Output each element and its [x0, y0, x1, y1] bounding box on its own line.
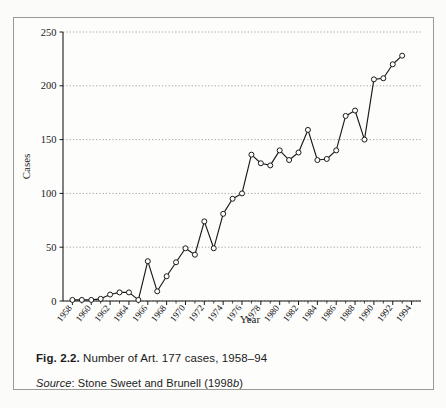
- data-point-1967: [155, 289, 160, 294]
- x-tick-label-1992: 1992: [375, 303, 394, 324]
- x-tick-label-1980: 1980: [262, 303, 281, 324]
- gridlines: [63, 32, 421, 301]
- source-label: Source: [36, 377, 71, 389]
- data-point-1987: [343, 113, 348, 118]
- chart-plot-area: 050100150200250 195819601962196419661968…: [14, 18, 435, 328]
- data-point-markers: [70, 53, 405, 302]
- x-axis-title: Year: [240, 313, 261, 325]
- data-series-line: [72, 56, 402, 300]
- line-chart: 050100150200250 195819601962196419661968…: [14, 18, 435, 328]
- data-point-1980: [277, 148, 282, 153]
- x-tick-label-1994: 1994: [394, 303, 413, 324]
- x-tick-label-1986: 1986: [319, 303, 338, 324]
- data-point-1960: [89, 297, 94, 302]
- y-tick-label-200: 200: [41, 80, 57, 91]
- data-point-1971: [192, 252, 197, 257]
- figure-frame: 050100150200250 195819601962196419661968…: [13, 17, 434, 390]
- x-tick-label-1968: 1968: [149, 303, 168, 324]
- figure-source: Source: Stone Sweet and Brunell (1998b): [36, 376, 426, 390]
- y-tick-labels: 050100150200250: [41, 27, 57, 307]
- x-tick-label-1962: 1962: [92, 303, 111, 324]
- y-tick-label-50: 50: [46, 242, 57, 253]
- source-text-b: ): [239, 377, 243, 389]
- x-tick-label-1966: 1966: [130, 303, 149, 324]
- data-point-1988: [353, 108, 358, 113]
- x-tick-label-1970: 1970: [168, 303, 187, 324]
- data-point-1969: [174, 260, 179, 265]
- x-tick-label-1990: 1990: [356, 303, 375, 324]
- page-background: 050100150200250 195819601962196419661968…: [0, 0, 446, 408]
- y-tick-label-100: 100: [41, 188, 57, 199]
- x-tick-label-1964: 1964: [111, 303, 130, 324]
- data-point-1973: [211, 246, 216, 251]
- data-point-1983: [305, 127, 310, 132]
- data-point-1964: [126, 290, 131, 295]
- data-point-1958: [70, 297, 75, 302]
- data-point-1959: [79, 297, 84, 302]
- data-point-1978: [258, 161, 263, 166]
- source-text-a: Stone Sweet and Brunell (1998: [75, 377, 233, 389]
- x-tick-label-1972: 1972: [187, 303, 206, 324]
- data-point-1977: [249, 152, 254, 157]
- figure-caption-block: Fig. 2.2. Number of Art. 177 cases, 1958…: [36, 351, 426, 390]
- data-point-1966: [145, 259, 150, 264]
- data-point-1972: [202, 219, 207, 224]
- data-point-1984: [315, 158, 320, 163]
- data-point-1963: [117, 290, 122, 295]
- y-tick-label-150: 150: [41, 134, 57, 145]
- x-tick-label-1960: 1960: [74, 303, 93, 324]
- chart-axes: [63, 32, 421, 301]
- x-tick-label-1974: 1974: [206, 303, 225, 324]
- figure-number: Fig. 2.2.: [36, 352, 80, 364]
- x-tick-label-1958: 1958: [55, 303, 74, 324]
- data-point-1979: [268, 163, 273, 168]
- data-point-1970: [183, 246, 188, 251]
- data-point-1968: [164, 274, 169, 279]
- data-point-1981: [287, 158, 292, 163]
- y-axis-title: Cases: [20, 154, 32, 180]
- data-point-1961: [98, 296, 103, 301]
- x-tick-label-1982: 1982: [281, 303, 300, 324]
- data-point-1975: [230, 196, 235, 201]
- data-point-1965: [136, 297, 141, 302]
- x-tick-label-1988: 1988: [337, 303, 356, 324]
- data-point-1982: [296, 150, 301, 155]
- data-point-1992: [390, 62, 395, 67]
- x-tick-label-1984: 1984: [300, 303, 319, 324]
- y-tick-label-0: 0: [51, 296, 56, 307]
- figure-caption-body: Number of Art. 177 cases, 1958–94: [83, 352, 267, 364]
- data-point-1962: [108, 292, 113, 297]
- data-point-1986: [334, 148, 339, 153]
- data-point-1989: [362, 137, 367, 142]
- data-point-1976: [240, 191, 245, 196]
- figure-caption: Fig. 2.2. Number of Art. 177 cases, 1958…: [36, 351, 426, 367]
- data-point-1985: [324, 156, 329, 161]
- data-point-1991: [381, 76, 386, 81]
- data-point-1990: [371, 77, 376, 82]
- data-point-1974: [221, 211, 226, 216]
- y-tick-label-250: 250: [41, 27, 57, 38]
- data-point-1993: [400, 53, 405, 58]
- x-tick-labels: 1958196019621964196619681970197219741976…: [55, 303, 414, 324]
